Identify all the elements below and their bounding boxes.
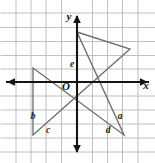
x-axis-label: x bbox=[142, 79, 149, 91]
vertex-label-a: a bbox=[118, 111, 123, 121]
coordinate-grid-figure: x y O e a b c d bbox=[0, 0, 155, 163]
origin-label: O bbox=[62, 80, 70, 92]
vertex-label-d: d bbox=[106, 125, 111, 135]
star-polygon-graph: x y O e a b c d bbox=[0, 0, 155, 163]
y-axis-label: y bbox=[65, 10, 72, 22]
vertex-label-b: b bbox=[31, 111, 36, 121]
